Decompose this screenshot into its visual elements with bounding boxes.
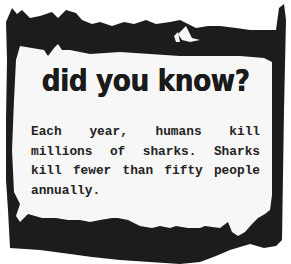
fact-text: Each year, humans kill millions of shark… [31, 122, 260, 200]
did-you-know-heading: did you know? [17, 64, 273, 98]
